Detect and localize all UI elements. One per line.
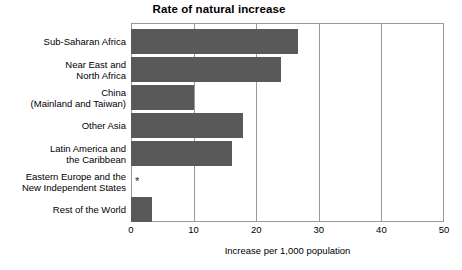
bar-row — [131, 197, 444, 222]
chart-title-text: Rate of natural increase — [153, 3, 286, 15]
category-label: Other Asia — [0, 120, 126, 131]
x-tick-label-50: 50 — [429, 224, 459, 236]
category-label: Sub-Saharan Africa — [0, 36, 126, 47]
x-tick-label-30: 30 — [304, 224, 334, 236]
category-label: Near East and North Africa — [0, 59, 126, 81]
x-axis-ticks: 01020304050 — [131, 224, 444, 238]
category-label: China (Mainland and Taiwan) — [0, 87, 126, 109]
chart-title: Rate of natural increase — [0, 3, 462, 15]
bar — [131, 141, 232, 166]
bars-layer: * — [131, 23, 444, 222]
bar-row — [131, 141, 444, 166]
bar-row — [131, 29, 444, 54]
bar — [131, 113, 243, 138]
category-axis-labels: Sub-Saharan AfricaNear East and North Af… — [0, 23, 126, 222]
bar — [131, 29, 298, 54]
category-label: Rest of the World — [0, 204, 126, 215]
bar — [131, 57, 281, 82]
bar-row: * — [131, 169, 444, 194]
x-tick-label-20: 20 — [241, 224, 271, 236]
bar-row — [131, 113, 444, 138]
bar — [131, 85, 194, 110]
category-label: Latin America and the Caribbean — [0, 143, 126, 165]
bar-asterisk-marker: * — [135, 177, 139, 185]
bar — [131, 197, 152, 222]
chart-container: Rate of natural increase * Sub-Saharan A… — [0, 0, 462, 270]
x-tick-label-40: 40 — [366, 224, 396, 236]
x-tick-label-0: 0 — [116, 224, 146, 236]
x-axis-label: Increase per 1,000 population — [131, 245, 444, 256]
bar-row — [131, 57, 444, 82]
x-tick-label-10: 10 — [179, 224, 209, 236]
category-label: Eastern Europe and the New Independent S… — [0, 171, 126, 193]
bar-row — [131, 85, 444, 110]
